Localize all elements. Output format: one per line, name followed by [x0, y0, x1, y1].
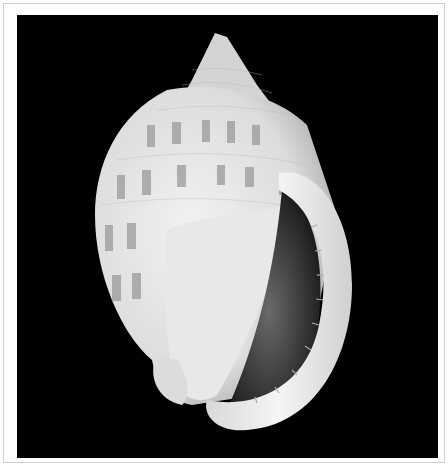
shell-photo [17, 15, 438, 458]
shell-illustration [17, 15, 438, 458]
image-frame [3, 3, 445, 463]
